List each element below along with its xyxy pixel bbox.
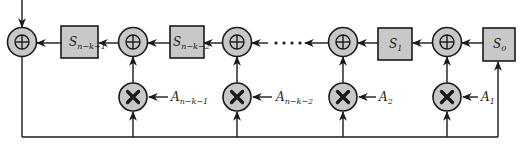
adder-4 (329, 28, 358, 57)
ellipsis (274, 41, 301, 44)
coef-label-a1: A1 (480, 90, 495, 106)
multiplier-1 (119, 83, 147, 111)
adder-5 (433, 28, 462, 57)
coef-label-a-nk1: An−k−1 (170, 90, 208, 106)
register-s0: S0 (483, 28, 515, 61)
register-s-nk1: Sn−k−1 (61, 26, 106, 58)
multiplier-4 (433, 83, 461, 111)
multiplier-2 (223, 83, 251, 111)
coef-label-a-nk2: An−k−2 (275, 90, 313, 106)
adder-2 (119, 28, 148, 57)
lfsr-circuit-diagram: Sn−k−1 Sn−k−2 S1 S0 An−k−1 An−k−2 A2 A1 (0, 0, 521, 144)
multiplier-3 (329, 83, 357, 111)
adder-1 (8, 28, 37, 57)
register-s1: S1 (378, 28, 412, 60)
coef-label-a2: A2 (378, 90, 393, 106)
adder-3 (223, 28, 252, 57)
register-s-nk2: Sn−k−2 (170, 26, 210, 58)
